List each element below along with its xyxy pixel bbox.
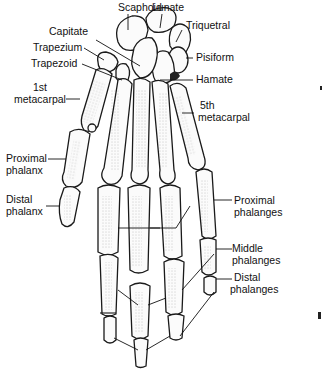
label-5th-metacarpal-line2: metacarpal	[198, 112, 250, 124]
middle-distal	[134, 338, 148, 368]
little-distal	[204, 276, 216, 295]
label-thumb-distal-phalanx: Distal phalanx	[6, 194, 43, 217]
label-5th-metacarpal-line1: 5th	[198, 100, 250, 112]
label-thumb-proximal-phalanx: Proximal phalanx	[6, 153, 47, 176]
label-hamate: Hamate	[196, 74, 233, 86]
label-lunate: Lunate	[152, 2, 184, 14]
finger-phalanges	[98, 169, 216, 368]
label-proximal-phalanges-line1: Proximal	[234, 195, 282, 207]
carpal-bones	[98, 8, 191, 84]
label-distal-phalanges-line2: phalanges	[230, 284, 278, 296]
label-distal-phalanges-line1: Distal	[230, 272, 278, 284]
label-proximal-phalanges: Proximal phalanges	[234, 195, 282, 218]
label-proximal-phalanges-line2: phalanges	[234, 207, 282, 219]
label-thumb-distal-line2: phalanx	[6, 206, 43, 218]
hand-skeleton-illustration	[0, 0, 323, 369]
index-distal	[104, 316, 116, 343]
sesamoid-bone	[88, 124, 96, 132]
label-capitate: Capitate	[49, 26, 88, 38]
label-middle-phalanges: Middle phalanges	[232, 243, 280, 266]
thumb-phalanges	[59, 129, 90, 226]
label-1st-metacarpal: 1st metacarpal	[12, 82, 68, 105]
label-trapezoid: Trapezoid	[31, 58, 77, 70]
edge-artifact	[318, 312, 321, 319]
label-distal-phalanges: Distal phalanges	[230, 272, 278, 295]
metacarpal-bones	[81, 69, 205, 185]
label-trapezium: Trapezium	[33, 42, 82, 54]
label-triquetral: Triquetral	[186, 20, 230, 32]
label-middle-phalanges-line1: Middle	[232, 243, 280, 255]
label-5th-metacarpal: 5th metacarpal	[198, 100, 250, 123]
label-1st-metacarpal-line1: 1st	[12, 82, 68, 94]
ring-distal	[168, 314, 184, 340]
label-1st-metacarpal-line2: metacarpal	[12, 94, 68, 106]
edge-artifact	[320, 86, 322, 90]
label-thumb-proximal-line1: Proximal	[6, 153, 47, 165]
label-thumb-distal-line1: Distal	[6, 194, 43, 206]
label-middle-phalanges-line2: phalanges	[232, 255, 280, 267]
label-pisiform: Pisiform	[196, 52, 234, 64]
label-thumb-proximal-line2: phalanx	[6, 165, 47, 177]
